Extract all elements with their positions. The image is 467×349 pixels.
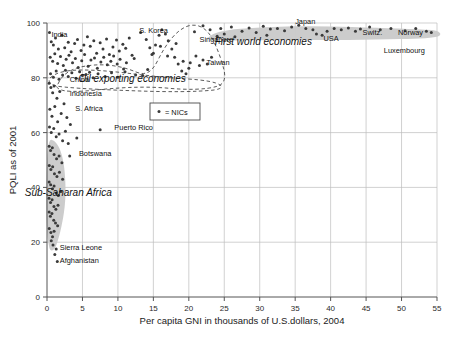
x-tick-label: 40	[326, 304, 335, 313]
data-point	[53, 85, 56, 88]
data-point	[68, 154, 71, 157]
data-point	[95, 52, 98, 55]
data-point	[51, 198, 54, 201]
x-tick-label: 50	[397, 304, 406, 313]
data-point	[71, 61, 74, 64]
point-label: Taiwan	[207, 58, 230, 67]
point-label: S. Africa	[75, 104, 103, 113]
data-point	[276, 27, 279, 30]
data-point	[50, 212, 53, 215]
data-point	[193, 30, 196, 33]
data-point	[67, 142, 70, 145]
data-point	[99, 128, 102, 131]
data-point	[49, 215, 52, 218]
data-point	[58, 132, 61, 135]
y-tick-label: 20	[31, 238, 40, 247]
point-label: S. Korea	[139, 26, 169, 35]
data-point	[48, 126, 51, 129]
data-point	[148, 46, 151, 49]
data-point	[131, 54, 134, 57]
data-point	[51, 235, 54, 238]
data-point	[48, 82, 51, 85]
data-point	[116, 63, 119, 66]
data-point	[340, 28, 343, 31]
legend-label-nics: = NICs	[165, 108, 188, 117]
x-tick-label: 20	[184, 304, 193, 313]
data-point	[248, 26, 251, 29]
data-point	[52, 127, 55, 130]
data-point	[76, 38, 79, 41]
x-tick-label: 45	[362, 304, 371, 313]
data-point	[122, 68, 125, 71]
chart-figure: 0510152025303540455055 020406080100 Per …	[0, 0, 467, 349]
data-point	[50, 115, 53, 118]
data-point	[52, 205, 55, 208]
data-point	[359, 28, 362, 31]
data-point	[67, 41, 70, 44]
data-point	[219, 27, 222, 30]
data-point	[389, 27, 392, 30]
data-point	[145, 38, 148, 41]
x-tick-label: 0	[45, 304, 50, 313]
data-point	[51, 165, 54, 168]
data-point	[182, 60, 185, 63]
data-point	[87, 65, 90, 68]
region-label: Oil exporting economies	[78, 73, 185, 84]
data-point	[55, 97, 58, 100]
data-point	[56, 62, 59, 65]
data-point	[290, 26, 293, 29]
data-point	[70, 50, 73, 53]
data-point	[56, 204, 59, 207]
data-point	[333, 27, 336, 30]
data-point	[124, 47, 127, 50]
point-label: Luxembourg	[384, 46, 425, 55]
data-point	[187, 67, 190, 70]
data-point	[175, 42, 178, 45]
data-point	[112, 54, 115, 57]
data-point	[52, 243, 55, 246]
data-point	[62, 64, 65, 67]
data-point	[64, 69, 67, 72]
data-point	[198, 64, 201, 67]
data-point	[159, 45, 162, 48]
data-point	[315, 32, 318, 35]
data-point	[67, 54, 70, 57]
data-point	[55, 157, 58, 160]
data-point	[53, 172, 56, 175]
data-point	[230, 26, 233, 29]
data-point	[262, 25, 265, 28]
data-point	[52, 219, 55, 222]
data-point	[49, 72, 52, 75]
data-point	[50, 40, 53, 43]
x-axis-title: Per capita GNI in thousands of U.S.dolla…	[140, 315, 345, 326]
data-point	[61, 139, 64, 142]
data-point	[60, 161, 63, 164]
data-point	[61, 74, 64, 77]
data-point	[60, 112, 63, 115]
data-point	[70, 71, 73, 74]
data-point	[255, 31, 258, 34]
x-tick-label: 55	[433, 304, 442, 313]
data-point	[111, 46, 114, 49]
data-point	[177, 63, 180, 66]
data-point	[53, 253, 56, 256]
data-point	[119, 58, 122, 61]
data-point	[80, 59, 83, 62]
data-point	[56, 260, 59, 263]
data-point	[48, 108, 51, 111]
scatter-plot-svg: 0510152025303540455055 020406080100 Per …	[0, 0, 467, 349]
point-label: Norway	[398, 28, 423, 37]
data-point	[50, 239, 53, 242]
data-point	[146, 68, 149, 71]
data-point	[52, 43, 55, 46]
data-point	[53, 52, 56, 55]
point-label: Sierra Leone	[60, 243, 102, 252]
data-point	[58, 171, 61, 174]
data-point	[354, 30, 357, 33]
data-point	[53, 105, 56, 108]
x-tick-label: 35	[291, 304, 300, 313]
x-tick-label: 25	[220, 304, 229, 313]
data-point	[56, 224, 59, 227]
data-point	[99, 41, 102, 44]
data-point	[170, 48, 173, 51]
